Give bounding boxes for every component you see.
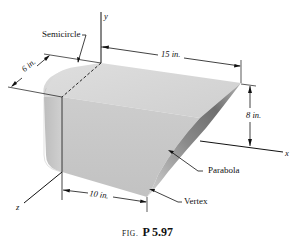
dim-8-arrow-bottom <box>248 139 252 146</box>
caption-number: P 5.97 <box>142 225 173 239</box>
caption-prefix: FIG. <box>122 229 138 238</box>
vertex-label: Vertex <box>184 197 208 206</box>
dim-8-label: 8 in. <box>246 111 261 120</box>
dim-10-arrow-left <box>63 189 70 193</box>
dim-15-label: 15 in. <box>161 50 180 59</box>
x-axis <box>200 141 283 152</box>
dim-6-arrow-top <box>44 55 50 61</box>
dim-10-arrow-right <box>140 200 147 204</box>
figure-p5-97: y x z 15 in. 8 in. 6 in. 10 in. Semicirc… <box>0 0 299 243</box>
parabola-label: Parabola <box>208 166 240 175</box>
dim-6-extension-top <box>44 54 101 63</box>
figure-caption: FIG. P 5.97 <box>122 222 173 240</box>
z-axis <box>24 172 62 203</box>
cylinder-front-surface <box>44 88 62 172</box>
dim-15-arrow-right <box>234 64 241 68</box>
semicircle-leader-arrow <box>77 57 80 63</box>
semicircle-label: Semicircle <box>42 30 80 39</box>
dim-10-label: 10 in. <box>89 189 109 200</box>
vertex-leader <box>152 190 182 202</box>
y-axis-label: y <box>104 12 108 21</box>
x-axis-label: x <box>285 149 289 158</box>
dim-15-line-right <box>184 58 240 66</box>
dim-6-arrow-bottom <box>11 81 17 87</box>
dim-8-extension-top <box>241 84 256 86</box>
dim-8-arrow-top <box>248 86 252 93</box>
z-axis-label: z <box>16 203 19 212</box>
dim-15-line-left <box>103 47 158 55</box>
